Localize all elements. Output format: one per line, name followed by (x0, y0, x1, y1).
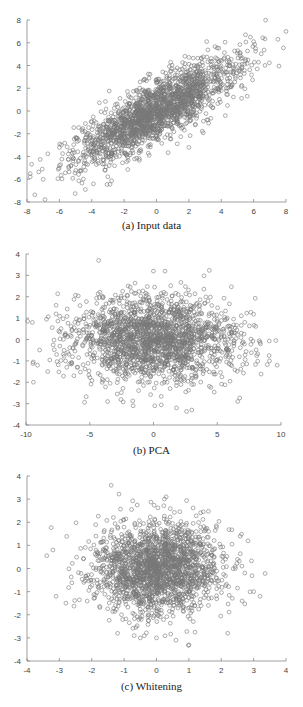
y-tick-label: -3 (13, 400, 21, 409)
y-tick-label: -6 (14, 175, 22, 184)
y-tick-label: -1 (14, 588, 22, 597)
x-tick-label: -4 (88, 207, 96, 216)
x-tick-label: 0 (151, 430, 156, 439)
x-tick-label: 2 (187, 207, 192, 216)
y-tick-label: -2 (14, 130, 22, 139)
x-tick-label: 10 (277, 430, 286, 439)
y-tick-label: -3 (14, 634, 22, 643)
scatter-points (45, 483, 267, 647)
y-tick-label: 4 (17, 472, 22, 481)
x-tick-label: -10 (20, 430, 32, 439)
y-tick-label: 2 (17, 518, 22, 527)
x-tick-label: -5 (86, 430, 94, 439)
y-tick-label: 3 (16, 271, 21, 280)
x-tick-label: 0 (154, 207, 159, 216)
scatter-plot-input-data: -8-6-4-202468-8-6-4-202468 (0, 0, 303, 222)
x-tick-label: 6 (251, 207, 256, 216)
x-tick-label: 5 (215, 430, 220, 439)
x-tick-label: -4 (23, 666, 31, 675)
x-tick-label: -6 (56, 207, 64, 216)
chart-panel-pca: -4-3-2-101234-10-50510 (b) PCA (0, 236, 303, 462)
x-tick-label: -8 (23, 207, 31, 216)
x-tick-label: 3 (251, 666, 256, 675)
caption-pca: (b) PCA (0, 444, 303, 456)
chart-panel-input-data: -8-6-4-202468-8-6-4-202468 (a) Input dat… (0, 0, 303, 236)
y-tick-label: -8 (14, 198, 22, 207)
y-tick-label: 2 (16, 293, 21, 302)
y-tick-label: 0 (17, 107, 22, 116)
x-tick-label: -2 (88, 666, 96, 675)
y-tick-label: 4 (16, 250, 21, 259)
y-tick-label: 8 (17, 16, 22, 25)
y-tick-label: 0 (17, 565, 22, 574)
scatter-points (28, 18, 288, 201)
y-tick-label: 0 (16, 336, 21, 345)
y-tick-label: -4 (14, 153, 22, 162)
x-tick-label: 0 (154, 666, 159, 675)
x-tick-label: 1 (187, 666, 192, 675)
y-tick-label: 3 (17, 495, 22, 504)
y-tick-label: -2 (14, 611, 22, 620)
x-tick-label: -3 (56, 666, 64, 675)
caption-input-data: (a) Input data (0, 219, 303, 231)
chart-panel-whitening: -4-3-2-101234-4-3-2-101234 (c) Whitening (0, 462, 303, 707)
x-tick-label: 4 (284, 666, 289, 675)
x-tick-label: -2 (121, 207, 129, 216)
x-tick-label: 2 (219, 666, 224, 675)
y-tick-label: -2 (13, 378, 21, 387)
y-tick-label: 6 (17, 39, 22, 48)
scatter-points (26, 259, 279, 414)
scatter-plot-pca: -4-3-2-101234-10-50510 (0, 236, 303, 444)
x-tick-label: -1 (121, 666, 129, 675)
y-tick-label: 4 (17, 62, 22, 71)
y-tick-label: 1 (16, 314, 21, 323)
caption-whitening: (c) Whitening (0, 680, 303, 692)
x-tick-label: 4 (219, 207, 224, 216)
y-tick-label: -4 (13, 421, 21, 430)
y-tick-label: 2 (17, 84, 22, 93)
y-tick-label: 1 (17, 541, 22, 550)
scatter-plot-whitening: -4-3-2-101234-4-3-2-101234 (0, 462, 303, 684)
y-tick-label: -1 (13, 357, 21, 366)
x-tick-label: 8 (284, 207, 289, 216)
y-tick-label: -4 (14, 657, 22, 666)
